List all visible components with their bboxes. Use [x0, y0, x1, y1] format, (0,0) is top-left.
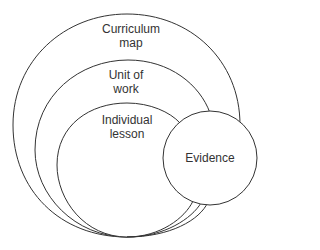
- curriculum-label-line2: map: [102, 36, 160, 50]
- evidence-label: Evidence: [185, 151, 234, 165]
- curriculum-map-label: Curriculum map: [102, 22, 160, 50]
- lesson-label-line2: lesson: [102, 127, 153, 141]
- unit-label-line2: work: [109, 82, 144, 96]
- lesson-label-line1: Individual: [102, 113, 153, 127]
- unit-of-work-label: Unit of work: [109, 68, 144, 96]
- individual-lesson-label: Individual lesson: [102, 113, 153, 141]
- unit-label-line1: Unit of: [109, 68, 144, 82]
- curriculum-label-line1: Curriculum: [102, 22, 160, 36]
